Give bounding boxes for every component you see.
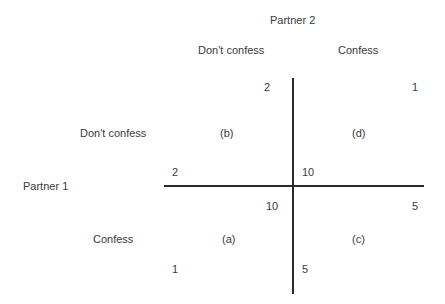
cell-c-partner2-payoff: 5 (412, 200, 418, 213)
row-strategy-confess: Confess (93, 233, 133, 246)
cell-a-partner2-payoff: 10 (266, 200, 278, 213)
cell-d-partner2-payoff: 1 (412, 81, 418, 94)
column-strategy-dont-confess: Don't confess (198, 44, 264, 57)
horizontal-divider (164, 185, 424, 187)
cell-d-partner1-payoff: 10 (302, 166, 314, 179)
cell-b-partner1-payoff: 2 (172, 166, 178, 179)
row-player-label: Partner 1 (23, 180, 68, 193)
column-strategy-confess: Confess (338, 44, 378, 57)
column-player-label: Partner 2 (270, 14, 315, 27)
row-strategy-dont-confess: Don't confess (80, 127, 146, 140)
cell-b-partner2-payoff: 2 (264, 81, 270, 94)
cell-d-label: (d) (352, 127, 365, 140)
cell-a-label: (a) (222, 233, 235, 246)
cell-a-partner1-payoff: 1 (172, 263, 178, 276)
cell-c-label: (c) (352, 233, 365, 246)
cell-c-partner1-payoff: 5 (302, 263, 308, 276)
cell-b-label: (b) (220, 127, 233, 140)
